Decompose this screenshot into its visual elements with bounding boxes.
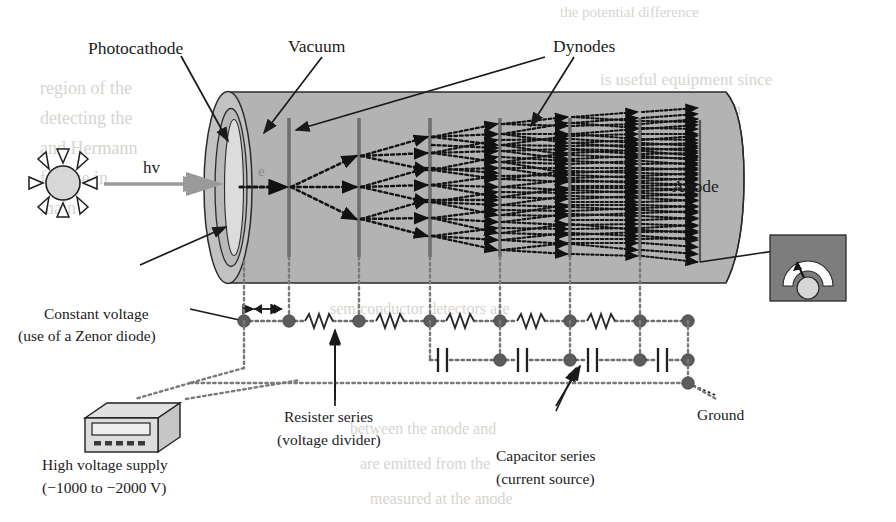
circuit-label-arrows	[335, 330, 580, 406]
capacitor-4	[658, 348, 667, 372]
constant-voltage-span-arrow	[254, 304, 282, 314]
capacitor-label-arrow	[556, 366, 580, 406]
capacitor-row	[430, 321, 694, 372]
capacitor-3	[588, 348, 597, 372]
node-r2	[283, 315, 295, 327]
constant-voltage-leader	[190, 309, 244, 321]
label-photocathode: Photocathode	[88, 38, 183, 59]
label-ground: Ground	[697, 406, 744, 424]
capacitor-2	[518, 348, 527, 372]
node-r3	[353, 315, 365, 327]
label-constant-voltage-line2: (use of a Zenor diode)	[18, 327, 156, 345]
supply-diag-1	[190, 368, 244, 383]
label-resistor-series-line2: (voltage divider)	[277, 431, 381, 449]
light-source-icon	[29, 149, 97, 217]
figure-canvas: the potential difference is useful equip…	[0, 0, 896, 522]
node-ground	[682, 377, 694, 389]
resistor-1	[305, 314, 333, 328]
power-supply-box-icon[interactable]	[85, 403, 180, 452]
label-photon-hv: hv	[143, 158, 160, 178]
capacitor-1	[438, 348, 447, 372]
capacitor-row-nodes	[494, 354, 694, 366]
label-vacuum: Vacuum	[288, 36, 345, 57]
resistor-2	[376, 314, 404, 328]
resistor-4	[517, 314, 545, 328]
node-c1	[494, 354, 506, 366]
pmt-diagram-svg	[0, 0, 896, 522]
label-resistor-series-line1: Resister series	[284, 408, 373, 426]
label-capacitor-series-line1: Capacitor series	[496, 447, 595, 465]
resistor-3	[446, 314, 474, 328]
label-anode: Anode	[672, 176, 719, 197]
supply-diag-2	[135, 383, 190, 399]
resistor-5	[587, 314, 615, 328]
label-electron: e	[258, 163, 265, 181]
node-c2	[564, 354, 576, 366]
label-hv-supply-line1: High voltage supply	[42, 456, 168, 474]
resistor-row	[238, 314, 694, 328]
label-capacitor-series-line2: (current source)	[496, 470, 595, 488]
label-hv-supply-line2: (−1000 to −2000 V)	[42, 479, 166, 497]
label-constant-voltage-line1: Constant voltage	[44, 305, 149, 323]
node-c3	[634, 354, 646, 366]
analog-meter-icon[interactable]	[770, 235, 846, 301]
label-dynodes: Dynodes	[553, 36, 615, 57]
